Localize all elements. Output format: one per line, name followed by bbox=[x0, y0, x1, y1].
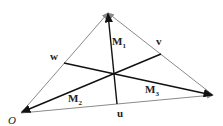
median-m3 bbox=[64, 63, 212, 95]
origin-label: O bbox=[8, 114, 16, 126]
w-label: w bbox=[50, 50, 58, 62]
m1-label: M1 bbox=[112, 35, 126, 50]
median-m2 bbox=[22, 54, 161, 112]
v-label: v bbox=[156, 35, 162, 47]
m3-label: M3 bbox=[145, 83, 159, 98]
triangle-medians-diagram: O u v w M1 M2 M3 bbox=[0, 0, 223, 126]
u-label: u bbox=[117, 107, 123, 119]
m2-label: M2 bbox=[68, 92, 82, 107]
median-m1 bbox=[108, 14, 117, 104]
